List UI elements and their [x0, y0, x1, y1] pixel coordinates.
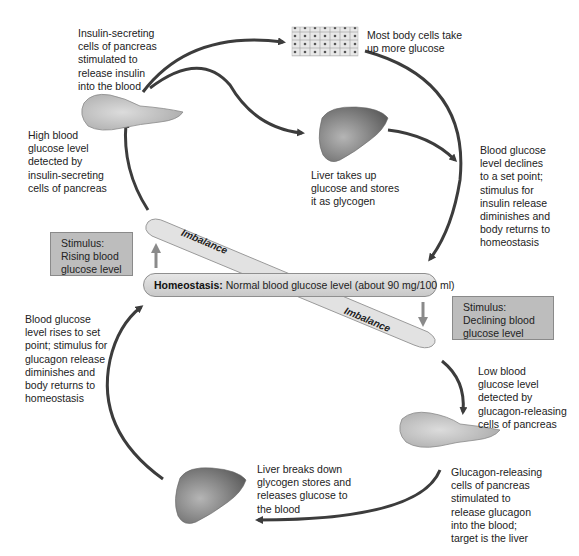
liver-icon-bottom	[175, 468, 246, 524]
homeostasis-text: Normal blood glucose level (about 90 mg/…	[223, 279, 455, 291]
pancreas-icon	[82, 94, 183, 130]
liver-breakdown-text: Liver breaks down glycogen stores and re…	[257, 463, 351, 516]
stimulus-declining-box: Stimulus: Declining blood glucose level	[452, 296, 554, 340]
arrow-cells-down	[365, 51, 461, 259]
stimulus-rising-box: Stimulus: Rising blood glucose level	[50, 232, 133, 276]
arrow-pancreas-to-liver	[150, 68, 302, 133]
insulin-release-text: Insulin-secreting cells of pancreas stim…	[78, 27, 157, 93]
arrow-up-to-pancreas	[125, 123, 148, 210]
body-cells-text: Most body cells take up more glucose	[367, 29, 462, 55]
rises-text: Blood glucose level rises to set point; …	[25, 313, 107, 405]
liver-icon	[319, 107, 388, 162]
arrow-pancreas-to-cells	[143, 40, 283, 92]
arrow-down-to-pancreas	[442, 361, 463, 412]
arrow-liver-to-loop	[388, 130, 455, 160]
arrow-liver-up	[107, 307, 163, 479]
body-cells-icon	[292, 27, 358, 56]
glucagon-release-text: Glucagon-releasing cells of pancreas sti…	[451, 466, 542, 545]
low-detected-text: Low blood glucose level detected by gluc…	[478, 365, 567, 431]
declines-text: Blood glucose level declines to a set po…	[480, 144, 550, 250]
high-detected-text: High blood glucose level detected by ins…	[28, 129, 107, 195]
homeostasis-label: Homeostasis:	[154, 279, 223, 291]
homeostasis-pill: Homeostasis: Normal blood glucose level …	[143, 273, 437, 297]
liver-uptake-text: Liver takes up glucose and stores it as …	[311, 169, 399, 209]
